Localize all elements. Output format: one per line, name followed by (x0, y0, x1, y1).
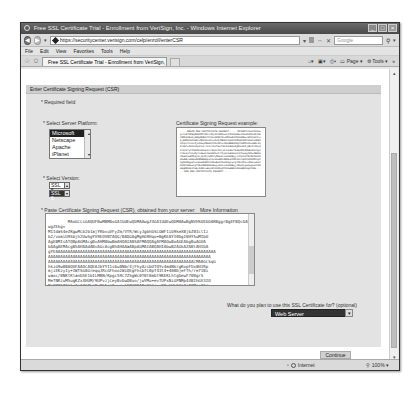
address-dropdown-icon[interactable]: ▾ (303, 37, 306, 44)
refresh-icon[interactable]: ↔ (317, 37, 323, 43)
address-tools: ▾ ↔ ✕ (303, 37, 331, 44)
platform-list-scrollbar[interactable]: ▴▾ (84, 130, 90, 158)
menu-edit[interactable]: Edit (40, 47, 49, 55)
ie-logo-icon (24, 25, 30, 31)
page-content: Enter Certificate Signing Request (CSR) … (21, 69, 390, 361)
maximize-button[interactable]: □ (378, 24, 387, 32)
chevron-down-icon[interactable]: ▾ (345, 309, 353, 317)
usage-label: What do you plan to use this SSL Certifi… (227, 302, 357, 308)
version-option-label: SSL 6 (51, 190, 60, 201)
usage-selected-value: Web Server (275, 311, 304, 317)
section-title: Enter Certificate Signing Request (CSR) (26, 85, 381, 94)
version-option-ssl5[interactable]: SSL 5 ▴ (49, 182, 65, 189)
favorites-star-icon[interactable]: ☆ (24, 55, 30, 66)
chevron-up-icon[interactable]: ▴ (64, 182, 70, 189)
minimize-button[interactable]: _ (368, 24, 377, 32)
menu-view[interactable]: View (56, 47, 67, 55)
command-bar: ⌂▾ ▣▾ ⎙▾ ▭ Page ▾ ⚙ Tools ▾ » (308, 57, 395, 66)
add-favorites-icon[interactable]: ✩ (33, 55, 39, 66)
server-platform-list[interactable]: Microsoft Netscape Apache iPlanet ▴▾ (49, 129, 91, 159)
menu-file[interactable]: File (25, 47, 33, 55)
browser-window: Free SSL Certificate Trial - Enrollment … (20, 22, 400, 371)
search-icon[interactable]: ⚲ (386, 37, 390, 44)
scroll-up-icon[interactable]: ▴ (390, 69, 398, 77)
print-icon[interactable]: ⎙▾ (330, 57, 336, 66)
forward-button[interactable]: ▶ (34, 36, 41, 45)
site-favicon-icon (52, 36, 59, 43)
feeds-icon[interactable]: ▣▾ (318, 57, 326, 66)
history-dropdown-icon[interactable]: ▾ (44, 37, 47, 43)
csr-textarea[interactable]: MAoGCCsGAQUFBwMBMAoGA1UdEwQDMAAwgZ4GA1Ud… (45, 213, 255, 286)
csr-scrollbar[interactable] (248, 214, 254, 285)
menu-help[interactable]: Help (120, 47, 130, 55)
tools-menu[interactable]: ⚙ Tools ▾ (367, 57, 388, 66)
csr-scroll-thumb[interactable] (249, 246, 254, 274)
close-button[interactable]: × (388, 24, 397, 32)
continue-button[interactable]: Continue (320, 351, 351, 359)
new-tab-button[interactable] (170, 58, 180, 66)
title-bar: Free SSL Certificate Trial - Enrollment … (21, 23, 399, 34)
required-note: * Required field (41, 99, 75, 105)
tab-row: ☆ ✩ Free SSL Certificate Trial - Enrollm… (21, 56, 399, 67)
version-option-ssl6[interactable]: SSL 6 ▾ (49, 190, 65, 197)
status-bar: ▫ Internet ⚲ 100% ▾ (21, 359, 399, 370)
protected-mode-icon: ▫ (287, 360, 289, 370)
page-menu[interactable]: ▭ Page ▾ (340, 57, 362, 66)
stop-icon[interactable]: ✕ (326, 37, 331, 44)
back-button[interactable]: ◀ (24, 36, 31, 45)
window-title: Free SSL Certificate Trial - Enrollment … (34, 25, 261, 31)
window-controls: _ □ × (368, 24, 397, 32)
tab-label: Free SSL Certificate Trial - Enrollment … (48, 58, 167, 66)
platform-label: * Select Server Platform: (43, 120, 98, 126)
tab-active[interactable]: Free SSL Certificate Trial - Enrollment … (42, 57, 167, 66)
zoom-dropdown-icon[interactable]: ▾ (386, 362, 389, 368)
example-label: Certificate Signing Request example: (176, 120, 258, 126)
url-text: https://securitycenter.verisign.com/celp… (60, 37, 183, 44)
menu-favorites[interactable]: Favorites (73, 47, 94, 55)
search-options-icon[interactable]: ▾ (393, 37, 396, 43)
search-input[interactable]: Google (334, 36, 383, 45)
security-zone[interactable]: ▫ Internet (287, 360, 315, 370)
csr-text: MAoGCCsGAQUFBwMBMAoGA1UdEwQDMAAwgZ4GA1Ud… (48, 219, 250, 286)
page-menu-label: Page (347, 58, 359, 64)
chevron-down-icon[interactable]: ▾ (64, 190, 70, 197)
usage-select[interactable]: Web Server ▾ (271, 309, 346, 317)
menu-tools[interactable]: Tools (101, 47, 113, 55)
tools-menu-label: Tools (372, 58, 384, 64)
csr-example-box: -----BEGIN NEW CERTIFICATE REQUEST----- … (176, 127, 266, 197)
zone-label: Internet (298, 360, 315, 370)
globe-icon (291, 363, 296, 368)
csr-panel: Enter Certificate Signing Request (CSR) … (26, 85, 381, 347)
chevron-right-icon[interactable]: » (392, 57, 395, 66)
zoom-icon: ⚲ (366, 362, 370, 368)
address-bar[interactable]: https://securitycenter.verisign.com/celp… (50, 36, 300, 45)
zoom-control[interactable]: ⚲ 100% ▾ (366, 360, 389, 370)
page-scrollbar[interactable]: ▴ ▾ (389, 69, 398, 361)
page-scroll-thumb[interactable] (391, 153, 397, 348)
zoom-level: 100% (372, 362, 385, 368)
home-icon[interactable]: ⌂▾ (308, 57, 314, 66)
address-row: ◀ ▶ ▾ https://securitycenter.verisign.co… (21, 34, 399, 47)
lock-icon[interactable] (309, 37, 314, 43)
menu-bar: File Edit View Favorites Tools Help (21, 47, 399, 56)
version-label: * Select Version: (43, 175, 80, 181)
